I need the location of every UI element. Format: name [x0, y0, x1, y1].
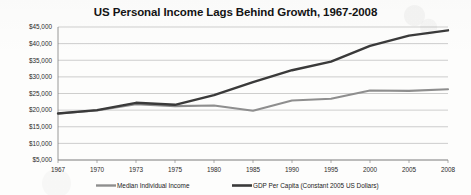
y-axis-tick-label: $45,000: [29, 23, 53, 30]
x-axis-tick-marks: [58, 160, 448, 163]
y-axis-tick-label: $25,000: [29, 90, 53, 97]
x-axis-tick-label: 1975: [168, 166, 183, 173]
chart-legend: Median Individual Income GDP Per Capita …: [96, 182, 379, 190]
x-axis-tick-label: 2005: [402, 166, 417, 173]
x-axis-tick-label: 1980: [207, 166, 222, 173]
y-axis-tick-label: $15,000: [29, 123, 53, 130]
x-axis-tick-label: 2008: [441, 166, 456, 173]
legend-label-gdp-per-capita: GDP Per Capita (Constant 2005 US Dollars…: [253, 182, 379, 190]
x-axis-tick-label: 1973: [129, 166, 144, 173]
y-axis-tick-label: $5,000: [32, 156, 52, 163]
legend-label-median-individual-income: Median Individual Income: [117, 182, 190, 189]
y-axis-tick-label: $35,000: [29, 57, 53, 64]
series-line-gdp-per-capita: [58, 30, 448, 113]
x-axis-tick-label: 1970: [90, 166, 105, 173]
x-axis-tick-label: 2000: [363, 166, 378, 173]
x-axis-tick-label: 1995: [324, 166, 339, 173]
y-axis-tick-label: $10,000: [29, 140, 53, 147]
chart-plot-area: $5,000$10,000$15,000$20,000$25,000$30,00…: [0, 0, 471, 195]
gridlines-group: [58, 27, 448, 160]
line-chart-svg: $5,000$10,000$15,000$20,000$25,000$30,00…: [0, 0, 471, 195]
y-axis-tick-label: $40,000: [29, 40, 53, 47]
x-axis-tick-labels: 1967197019731975198019851990199520002005…: [51, 166, 456, 173]
x-axis-tick-label: 1985: [246, 166, 261, 173]
y-axis-tick-label: $30,000: [29, 73, 53, 80]
x-axis-tick-label: 1967: [51, 166, 66, 173]
x-axis-tick-label: 1990: [285, 166, 300, 173]
y-axis-tick-label: $20,000: [29, 106, 53, 113]
y-axis-tick-labels: $5,000$10,000$15,000$20,000$25,000$30,00…: [29, 23, 53, 163]
